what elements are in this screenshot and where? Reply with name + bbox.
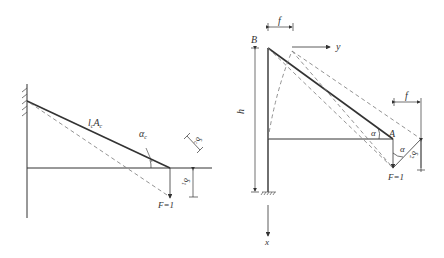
angle-label-upper: α [371,128,376,138]
elongation-label: δc [193,137,204,144]
x-axis-label: x [264,237,269,247]
right-figure: B A h f f y x α α δ2 F=1 [235,15,425,247]
cable [27,101,170,168]
fixed-support-icon [261,192,276,195]
node-a-label: A [388,128,396,139]
diagonal-member [268,48,393,139]
angle-leader [146,148,152,162]
deflection-label: δ1 [181,178,192,185]
node-b-label: B [251,34,257,45]
y-axis-label: y [335,41,341,52]
top-shift-label: f [278,15,282,26]
deformed-cable [30,103,170,197]
tip-shift-label: f [405,90,409,101]
angle-label-lower: α [400,144,405,154]
left-figure: lcAc αc δc δ1 F=1 [22,84,212,218]
angle-label: αc [139,128,147,140]
deflection-label: δ2 [409,151,420,158]
diagram-canvas: lcAc αc δc δ1 F=1 [0,0,444,258]
cable-label: lcAc [88,117,103,129]
load-label: F=1 [157,200,174,210]
height-label: h [235,109,246,114]
load-label: F=1 [387,172,404,182]
wall-hatch-icon [22,88,27,116]
angle-arc [150,160,151,168]
deformed-shape [268,48,421,168]
